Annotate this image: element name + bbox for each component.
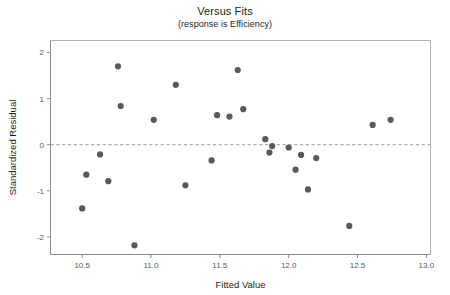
data-point [298,152,304,158]
data-point [387,117,393,123]
scatter-plot-canvas: 10.511.011.512.012.513.0 210-1-2 Fitted … [0,0,450,295]
y-axis-title: Standardized Residual [7,100,18,196]
data-point [105,178,111,184]
data-point [83,172,89,178]
y-tick-label: -1 [37,187,45,196]
data-point [173,82,179,88]
y-tick-label: -2 [37,233,45,242]
x-axis-ticks: 10.511.011.512.012.513.0 [74,255,434,271]
data-point [151,117,157,123]
data-point [208,157,214,163]
data-point [97,151,103,157]
x-tick-label: 11.5 [212,261,228,270]
data-point [266,149,272,155]
y-tick-label: 0 [40,141,45,150]
data-point [214,112,220,118]
data-point [79,205,85,211]
data-point [131,242,137,248]
data-point [226,113,232,119]
data-point [235,67,241,73]
data-point [286,144,292,150]
y-tick-label: 2 [40,48,45,57]
data-point [118,103,124,109]
x-tick-label: 12.5 [350,261,366,270]
versus-fits-chart: Versus Fits (response is Efficiency) 10.… [0,0,450,295]
data-point [292,167,298,173]
data-point [313,155,319,161]
y-tick-label: 1 [40,95,45,104]
y-axis-ticks: 210-1-2 [37,48,51,241]
data-point [182,182,188,188]
x-tick-label: 13.0 [419,261,435,270]
x-tick-label: 10.5 [74,261,90,270]
data-point [240,106,246,112]
data-points [79,63,394,248]
data-point [370,122,376,128]
data-point [346,223,352,229]
x-tick-label: 11.0 [144,261,160,270]
x-tick-label: 12.0 [281,261,297,270]
data-point [115,63,121,69]
data-point [269,143,275,149]
data-point [262,136,268,142]
data-point [305,186,311,192]
x-axis-title: Fitted Value [216,279,266,290]
plot-frame [51,41,431,255]
